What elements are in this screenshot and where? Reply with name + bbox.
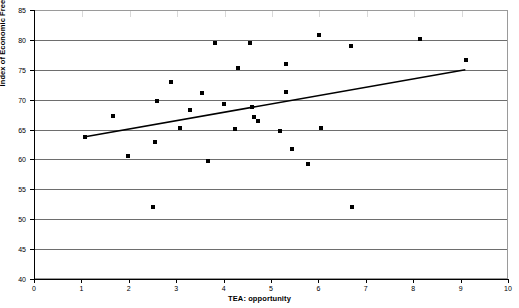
y-tick-label: 50 [0,216,26,223]
gridline-y [35,40,507,41]
data-point [155,99,159,103]
gridline-x [462,11,463,17]
data-point [169,80,173,84]
x-tick-label: 0 [32,285,36,292]
gridline-x [82,11,83,17]
y-tick-mark [30,100,34,101]
data-point [213,41,217,45]
data-point [236,66,240,70]
data-point [151,205,155,209]
y-tick-label: 40 [0,276,26,283]
data-point [306,162,310,166]
gridline-x [319,11,320,17]
data-point [248,41,252,45]
data-point [464,58,468,62]
y-tick-label: 70 [0,96,26,103]
x-tick-label: 3 [174,285,178,292]
gridline-x [177,11,178,17]
data-point [278,129,282,133]
y-tick-mark [30,10,34,11]
data-point [153,140,157,144]
x-tick-mark [81,279,82,283]
x-tick-label: 2 [127,285,131,292]
y-tick-label: 65 [0,126,26,133]
x-tick-mark [508,279,509,283]
data-point [178,126,182,130]
data-point [233,127,237,131]
plot-area [34,10,508,279]
data-point [284,62,288,66]
data-point [284,90,288,94]
x-tick-mark [271,279,272,283]
gridline-y [35,130,507,131]
y-tick-mark [30,40,34,41]
gridline-y [35,189,507,190]
x-tick-mark [224,279,225,283]
x-tick-label: 5 [269,285,273,292]
data-point [418,37,422,41]
x-tick-label: 8 [411,285,415,292]
data-point [319,126,323,130]
data-point [188,108,192,112]
data-point [222,102,226,106]
y-tick-mark [30,70,34,71]
x-axis-title: TEA: opportunity [0,294,519,303]
y-axis-title: Index of Economic Freedom [0,0,7,95]
y-tick-label: 45 [0,246,26,253]
scatter-chart: 40455055606570758085 012345678910 Index … [0,0,519,308]
y-axis-line [34,10,35,279]
x-tick-label: 6 [316,285,320,292]
y-tick-label: 60 [0,156,26,163]
x-tick-mark [461,279,462,283]
data-point [349,44,353,48]
gridline-y [35,159,507,160]
data-point [126,154,130,158]
data-point [83,135,87,139]
gridline-y [35,219,507,220]
x-tick-mark [366,279,367,283]
data-point [111,114,115,118]
data-point [250,105,254,109]
data-point [350,205,354,209]
x-tick-label: 1 [79,285,83,292]
gridline-x [414,11,415,17]
x-tick-label: 9 [459,285,463,292]
y-tick-mark [30,219,34,220]
x-tick-label: 4 [222,285,226,292]
data-point [290,147,294,151]
data-point [317,33,321,37]
data-point [200,91,204,95]
x-tick-label: 10 [504,285,512,292]
y-tick-label: 55 [0,186,26,193]
gridline-x [130,11,131,17]
y-tick-mark [30,249,34,250]
gridline-x [272,11,273,17]
x-tick-mark [176,279,177,283]
x-tick-mark [413,279,414,283]
gridline-x [225,11,226,17]
y-tick-mark [30,189,34,190]
gridline-x [367,11,368,17]
y-tick-mark [30,130,34,131]
y-tick-mark [30,159,34,160]
data-point [256,119,260,123]
gridline-y [35,100,507,101]
x-tick-mark [129,279,130,283]
x-tick-mark [34,279,35,283]
x-tick-label: 7 [364,285,368,292]
x-tick-mark [318,279,319,283]
gridline-y [35,249,507,250]
gridline-y [35,70,507,71]
data-point [206,159,210,163]
